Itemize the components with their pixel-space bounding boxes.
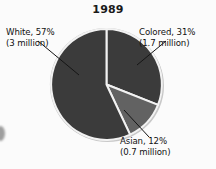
slice-label-asian: Asian, 12% (0.7 million): [120, 136, 170, 159]
slice-label-colored: Colored, 31% (1.7 million): [139, 27, 195, 50]
slice-label-white: White, 57% (3 million): [6, 27, 55, 50]
scan-artifact: [0, 126, 5, 141]
chart-title: 1989: [0, 3, 216, 16]
slice-label-colored-line1: Colored, 31%: [139, 27, 195, 38]
pie-chart-figure: 1989 White, 57% (3 million) Colored, 31%…: [0, 0, 216, 169]
slice-label-asian-line1: Asian, 12%: [120, 136, 170, 147]
slice-label-white-line1: White, 57%: [6, 27, 55, 38]
slice-label-white-line2: (3 million): [6, 38, 55, 49]
slice-label-colored-line2: (1.7 million): [139, 38, 195, 49]
slice-label-asian-line2: (0.7 million): [120, 147, 170, 158]
